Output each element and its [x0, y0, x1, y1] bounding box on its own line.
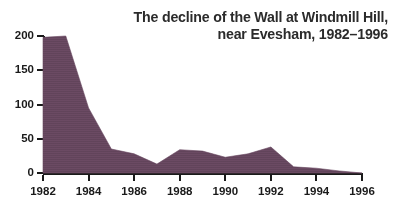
x-axis-tick [315, 175, 317, 181]
x-axis-tick [133, 175, 135, 181]
x-axis-tick [179, 175, 181, 181]
x-axis-label: 1988 [157, 185, 203, 197]
x-axis-tick [270, 175, 272, 181]
y-axis-tick [37, 104, 44, 106]
chart-container: The decline of the Wall at Windmill Hill… [0, 0, 393, 216]
y-axis-tick [37, 172, 44, 174]
x-axis-tick [224, 175, 226, 181]
y-axis-label: 0 [0, 167, 34, 178]
chart-title: The decline of the Wall at Windmill Hill… [78, 9, 388, 43]
x-axis-tick [88, 175, 90, 181]
y-axis-label: 50 [0, 133, 34, 144]
area-series-path [43, 36, 362, 173]
y-axis-tick [37, 69, 44, 71]
y-axis-label: 150 [0, 64, 34, 75]
y-axis-label: 100 [0, 99, 34, 110]
x-axis-label: 1992 [248, 185, 294, 197]
x-axis-tick [42, 175, 44, 181]
y-axis-label: 200 [0, 30, 34, 41]
x-axis-label: 1982 [20, 185, 66, 197]
y-axis-tick [37, 35, 44, 37]
x-axis-label: 1984 [66, 185, 112, 197]
y-axis-tick [37, 138, 44, 140]
x-axis-label: 1994 [293, 185, 339, 197]
y-axis-line [43, 36, 45, 175]
x-axis-label: 1996 [339, 185, 385, 197]
x-axis-label: 1990 [202, 185, 248, 197]
x-axis-label: 1986 [111, 185, 157, 197]
x-axis-tick [361, 175, 363, 181]
